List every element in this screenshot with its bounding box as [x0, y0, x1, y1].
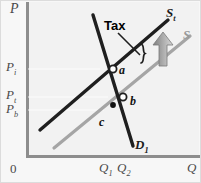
quantity-label-q1-base: Q: [99, 160, 108, 175]
demand-label: D1: [135, 138, 149, 155]
tax-label: Tax: [104, 19, 125, 32]
demand-label-sub: 1: [144, 146, 148, 155]
point-a-marker: [109, 65, 116, 72]
price-label-pi-base: P: [6, 59, 14, 74]
diagram-canvas: [0, 0, 201, 183]
price-label-pb-base: P: [6, 101, 14, 116]
point-c-marker: [110, 102, 116, 108]
point-a-label: a: [119, 64, 125, 76]
supply-with-tax-label-sub: t: [173, 14, 175, 23]
point-b-label: b: [130, 95, 136, 107]
price-label-pi: Pi: [6, 60, 16, 77]
quantity-label-q2-sub: 2: [126, 169, 130, 178]
point-c-label: c: [99, 116, 104, 128]
price-label-pb: Pb: [6, 102, 18, 119]
point-b-marker: [119, 93, 126, 100]
quantity-label-q2-base: Q: [117, 160, 126, 175]
quantity-label-q1-sub: 1: [108, 169, 112, 178]
x-axis-label: Q: [187, 161, 196, 174]
supply-label: S: [183, 28, 190, 41]
quantity-label-q2: Q2: [117, 161, 131, 178]
quantity-label-q1: Q1: [99, 161, 113, 178]
tax-incidence-diagram: P Pi Pt Pb St S D1 Tax a b c 0 Q1 Q2 Q: [0, 0, 201, 183]
demand-label-base: D: [135, 137, 144, 152]
y-axis-label: P: [10, 2, 19, 16]
price-label-pb-sub: b: [14, 110, 18, 119]
price-label-pt-base: P: [6, 87, 14, 102]
price-label-pi-sub: i: [14, 68, 16, 77]
supply-with-tax-label: St: [166, 6, 176, 23]
origin-label: 0: [10, 162, 17, 175]
